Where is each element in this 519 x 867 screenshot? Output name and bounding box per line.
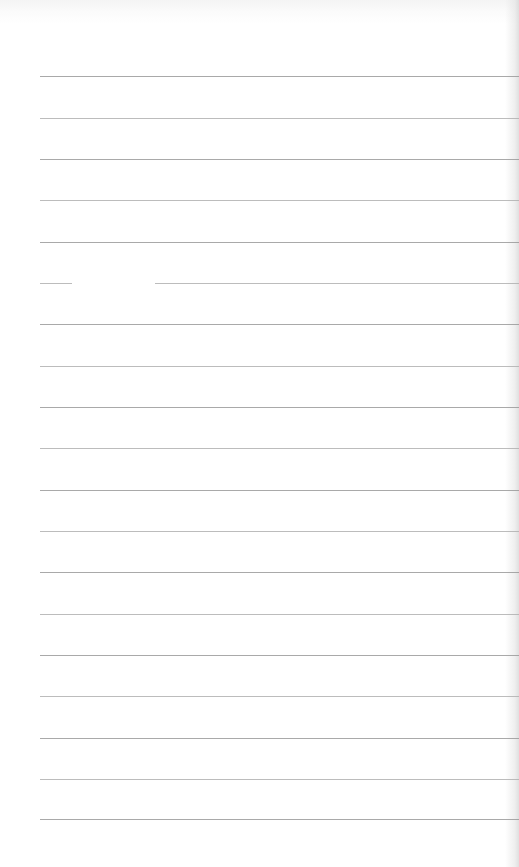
ruled-line	[40, 324, 519, 325]
ruled-line	[40, 614, 519, 615]
ruled-line	[40, 200, 519, 201]
ruled-line	[40, 490, 519, 491]
ruled-line	[40, 779, 519, 780]
ruled-line	[40, 159, 519, 160]
ruled-line	[40, 242, 519, 243]
ruled-line	[40, 655, 519, 656]
ruled-line	[40, 366, 519, 367]
ruled-line	[40, 407, 519, 408]
ruled-line	[40, 696, 519, 697]
ruled-line	[40, 572, 519, 573]
ruled-line	[40, 531, 519, 532]
ruled-line	[40, 76, 519, 77]
line-gap	[72, 282, 155, 285]
ruled-line	[40, 738, 519, 739]
page-edge-shadow	[505, 0, 519, 867]
lined-paper-page	[0, 0, 519, 867]
ruled-line	[40, 448, 519, 449]
ruled-line	[40, 819, 519, 820]
ruled-line	[40, 118, 519, 119]
